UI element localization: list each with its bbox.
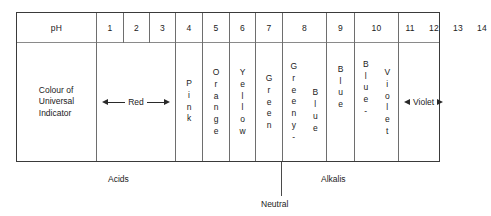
header-ph-10: 10 [372, 23, 382, 33]
vertical-letter: O [213, 67, 220, 79]
arrow-head-right-icon [164, 99, 170, 105]
vertical-letter: o [385, 90, 390, 102]
arrow-line-right [147, 102, 164, 103]
violet10-vertical-label: Violet [377, 67, 399, 138]
vertical-letter: r [268, 84, 271, 96]
header-cell-ph: pH [17, 13, 96, 43]
vertical-letter: n [291, 108, 296, 120]
vertical-letter: - [292, 131, 295, 143]
header-cell-ph-8: 8 [282, 13, 326, 43]
vertical-letter: g [214, 114, 219, 126]
vertical-letter: e [385, 114, 390, 126]
vertical-letter: Y [240, 67, 246, 79]
vertical-letter: i [386, 78, 388, 90]
vertical-letter: P [186, 78, 192, 90]
neutral-leader-line [281, 162, 282, 196]
body-cell-pink: Pink [175, 43, 202, 161]
vertical-letter: o [240, 114, 245, 126]
vertical-letter: l [340, 76, 342, 88]
vertical-letter: u [363, 82, 368, 94]
table-body-row: Colour of Universal Indicator Red Pink O… [17, 43, 439, 161]
vertical-letter: e [313, 123, 318, 135]
vertical-letter: t [386, 126, 388, 138]
blue9-vertical-label: Blue [327, 64, 354, 111]
vertical-letter: l [386, 102, 388, 114]
pink-vertical-label: Pink [176, 78, 202, 125]
vertical-letter: e [338, 100, 343, 112]
vertical-letter: G [266, 73, 273, 85]
body-cell-greeny-blue: Greeny- Blue [282, 43, 326, 161]
alkalis-label: Alkalis [321, 174, 346, 184]
header-ph-1: 1 [108, 23, 113, 33]
body-cell-violet: Violet [398, 43, 439, 161]
header-ph-8: 8 [302, 23, 307, 33]
vertical-letter: G [290, 61, 297, 73]
vertical-letter: l [242, 102, 244, 114]
blue10-vertical-label: Blue- [355, 58, 377, 117]
vertical-letter: B [338, 64, 344, 76]
header-ph-3: 3 [160, 23, 165, 33]
vertical-letter: u [338, 88, 343, 100]
vertical-letter: l [365, 70, 367, 82]
header-ph-14-cell: 14 [470, 13, 491, 43]
vertical-letter: e [291, 84, 296, 96]
header-cell-ph-7: 7 [255, 13, 282, 43]
red-arrow-label: Red [102, 96, 170, 108]
header-cell-ph-1: 1 [96, 13, 123, 43]
vertical-letter: V [384, 67, 390, 79]
vertical-letter: n [187, 102, 192, 114]
vertical-letter: l [314, 100, 316, 112]
vertical-letter: n [214, 102, 219, 114]
header-ph-12: 12 [429, 23, 439, 33]
vertical-letter: e [267, 96, 272, 108]
table-header-row: pH 1 2 3 4 5 6 7 8 9 10 [17, 13, 439, 43]
acids-label: Acids [108, 174, 129, 184]
red-label: Red [125, 98, 147, 107]
vertical-letter: - [364, 106, 367, 118]
vertical-letter: e [291, 96, 296, 108]
violet-arrow-label: Violet [404, 96, 434, 108]
header-ph-13: 13 [453, 23, 463, 33]
header-cell-ph-2: 2 [123, 13, 149, 43]
header-ph-12-cell: 12 [422, 13, 446, 43]
vertical-letter: B [312, 88, 318, 100]
vertical-letter: y [292, 120, 296, 132]
row-label-text: Colour of Universal Indicator [39, 85, 74, 120]
header-cell-ph-3: 3 [149, 13, 175, 43]
vertical-letter: e [267, 108, 272, 120]
vertical-letter: l [242, 90, 244, 102]
vertical-letter: r [292, 73, 295, 85]
greeny-vertical-label: Greeny- [283, 61, 305, 144]
header-ph-14: 14 [477, 23, 487, 33]
vertical-letter: u [313, 111, 318, 123]
header-ph-9: 9 [338, 23, 343, 33]
header-cell-ph-6: 6 [229, 13, 255, 43]
vertical-letter: r [215, 78, 218, 90]
header-ph-6: 6 [240, 23, 245, 33]
header-ph-5: 5 [214, 23, 219, 33]
arrow-line-left [108, 102, 125, 103]
ph-indicator-table: pH 1 2 3 4 5 6 7 8 9 10 [16, 12, 440, 162]
header-ph-label: pH [51, 23, 62, 33]
green-vertical-label: Green [256, 73, 282, 132]
arrow-head-right-icon [437, 99, 443, 105]
vertical-letter: e [240, 78, 245, 90]
body-cell-row-label: Colour of Universal Indicator [17, 43, 96, 161]
body-cell-blue-violet: Blue- Violet [354, 43, 398, 161]
header-cell-ph-5: 5 [202, 13, 229, 43]
header-ph-4: 4 [187, 23, 192, 33]
vertical-letter: e [363, 94, 368, 106]
body-cell-blue: Blue [326, 43, 354, 161]
vertical-letter: B [363, 58, 369, 70]
vertical-letter: e [214, 126, 219, 138]
header-ph-7: 7 [267, 23, 272, 33]
vertical-letter: k [187, 114, 191, 126]
neutral-label: Neutral [261, 199, 288, 209]
body-cell-red: Red [96, 43, 175, 161]
vertical-letter: w [239, 126, 245, 138]
body-cell-green: Green [255, 43, 282, 161]
vertical-letter: n [267, 120, 272, 132]
body-cell-yellow: Yellow [229, 43, 255, 161]
header-cell-ph-4: 4 [175, 13, 202, 43]
vertical-letter: a [214, 90, 219, 102]
